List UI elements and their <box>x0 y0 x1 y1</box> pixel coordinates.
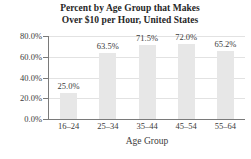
bar <box>217 51 234 119</box>
bar-value-label: 72.0% <box>166 33 206 42</box>
x-axis-line <box>48 119 245 120</box>
x-axis-category-label: 35–44 <box>125 122 169 131</box>
x-axis-title: Age Group <box>49 136 245 147</box>
bar <box>139 45 156 119</box>
y-axis-tick-mark <box>43 36 49 37</box>
bar <box>178 44 195 119</box>
y-axis-tick-label: 80.0% <box>0 32 42 41</box>
x-axis-category-label: 25–34 <box>86 122 130 131</box>
bar-chart: Percent by Age Group that Makes Over $10… <box>0 0 251 159</box>
y-axis-tick-label: 20.0% <box>0 94 42 103</box>
bar-value-label: 25.0% <box>49 82 89 91</box>
y-axis-tick-mark <box>43 98 49 99</box>
x-axis-category-label: 55–64 <box>203 122 247 131</box>
y-axis-tick-mark <box>43 57 49 58</box>
chart-title: Percent by Age Group that Makes Over $10… <box>30 3 230 26</box>
bar-value-label: 65.2% <box>205 40 245 49</box>
y-axis-tick-label: 0.0% <box>0 115 42 124</box>
y-axis-tick-mark <box>43 119 49 120</box>
y-axis-tick-label: 40.0% <box>0 74 42 83</box>
bar-value-label: 71.5% <box>127 34 167 43</box>
bar-value-label: 63.5% <box>88 42 128 51</box>
y-axis-labels: 0.0%20.0%40.0%60.0%80.0% <box>0 0 42 159</box>
bar <box>60 93 77 119</box>
y-axis-tick-label: 60.0% <box>0 53 42 62</box>
chart-title-line-2: Over $10 per Hour, United States <box>30 15 230 27</box>
y-axis-tick-mark <box>43 78 49 79</box>
x-axis-category-label: 16–24 <box>47 122 91 131</box>
x-axis-category-label: 45–54 <box>164 122 208 131</box>
bar <box>99 53 116 119</box>
chart-title-line-1: Percent by Age Group that Makes <box>30 3 230 15</box>
